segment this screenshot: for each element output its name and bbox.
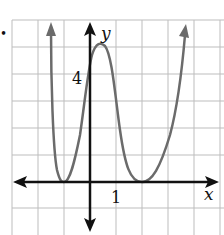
x-tick-label-1: 1	[111, 188, 121, 207]
curve-arrow-right-icon	[179, 24, 189, 38]
curve-arrow-left-icon	[46, 22, 56, 36]
x-axis-label: x	[204, 184, 214, 204]
y-axis-label: y	[100, 23, 111, 43]
bullet-marker: •	[0, 27, 7, 41]
y-axis	[84, 22, 96, 232]
graph: • y x 4 1	[0, 0, 224, 235]
y-tick-label-4: 4	[72, 69, 82, 88]
